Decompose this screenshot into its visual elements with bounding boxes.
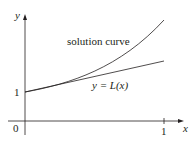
- solution-curve-label: solution curve: [67, 35, 130, 47]
- y-axis-label: y: [14, 9, 20, 21]
- x-tick-1-label: 1: [161, 125, 167, 137]
- diagram-canvas: y x 0 1 1 solution curve y = L(x): [0, 0, 193, 145]
- x-axis-label: x: [182, 122, 188, 134]
- line-label: y = L(x): [91, 79, 128, 92]
- y-tick-1-label: 1: [14, 86, 20, 98]
- y-axis-arrow-icon: [23, 14, 27, 20]
- origin-label: 0: [13, 122, 19, 134]
